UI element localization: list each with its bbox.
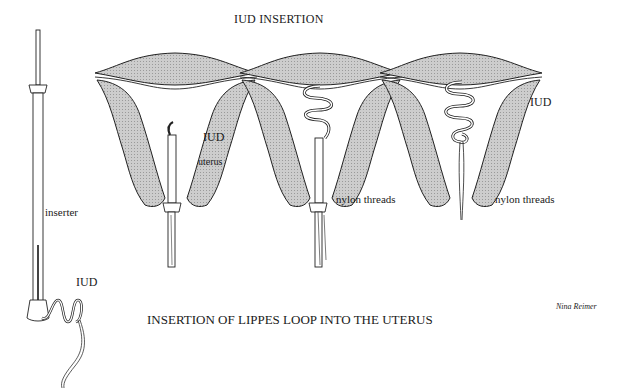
stage-2-uterus (240, 53, 402, 267)
diagram-caption: INSERTION OF LIPPES LOOP INTO THE UTERUS (147, 313, 433, 326)
label-stage3-iud: IUD (530, 96, 551, 108)
diagram-title: IUD INSERTION (234, 13, 324, 25)
label-stage1-iud: IUD (203, 131, 224, 143)
label-stage2-threads: nylon threads (336, 194, 396, 205)
stage-1-uterus (95, 53, 257, 267)
label-stage1-uterus: uterus (198, 157, 222, 167)
label-stage3-threads: nylon threads (495, 194, 555, 205)
illustrator-credit: Nina Reimer (556, 303, 597, 311)
label-inserter-iud: IUD (76, 276, 97, 288)
label-inserter: inserter (45, 207, 78, 218)
